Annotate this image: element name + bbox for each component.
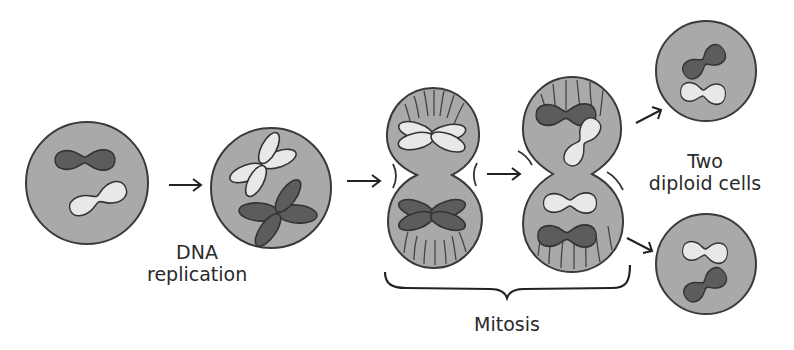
arrow-right-icon — [487, 168, 520, 180]
mitosis-label-text: Mitosis — [457, 313, 557, 335]
parent-cell — [26, 122, 148, 244]
dividing-cell-early — [387, 88, 482, 268]
arrow-down-right-icon — [627, 238, 652, 253]
dividing-cell-late — [518, 77, 623, 272]
arrow-up-right-icon — [636, 107, 661, 123]
mitosis-label: Mitosis — [457, 313, 557, 335]
arrow-right-icon — [169, 179, 201, 191]
replicated-cell — [211, 128, 331, 250]
result-label-line1: Two — [645, 150, 765, 172]
daughter-cell-top — [656, 21, 756, 121]
dna-label-line1: DNA — [147, 241, 247, 263]
daughter-cell-bottom — [656, 214, 756, 314]
arrow-right-icon — [347, 175, 380, 187]
mitosis-brace — [385, 265, 630, 298]
result-label-line2: diploid cells — [645, 172, 765, 194]
dna-replication-label: DNA replication — [147, 241, 247, 285]
two-diploid-cells-label: Two diploid cells — [645, 150, 765, 194]
dna-label-line2: replication — [147, 263, 247, 285]
